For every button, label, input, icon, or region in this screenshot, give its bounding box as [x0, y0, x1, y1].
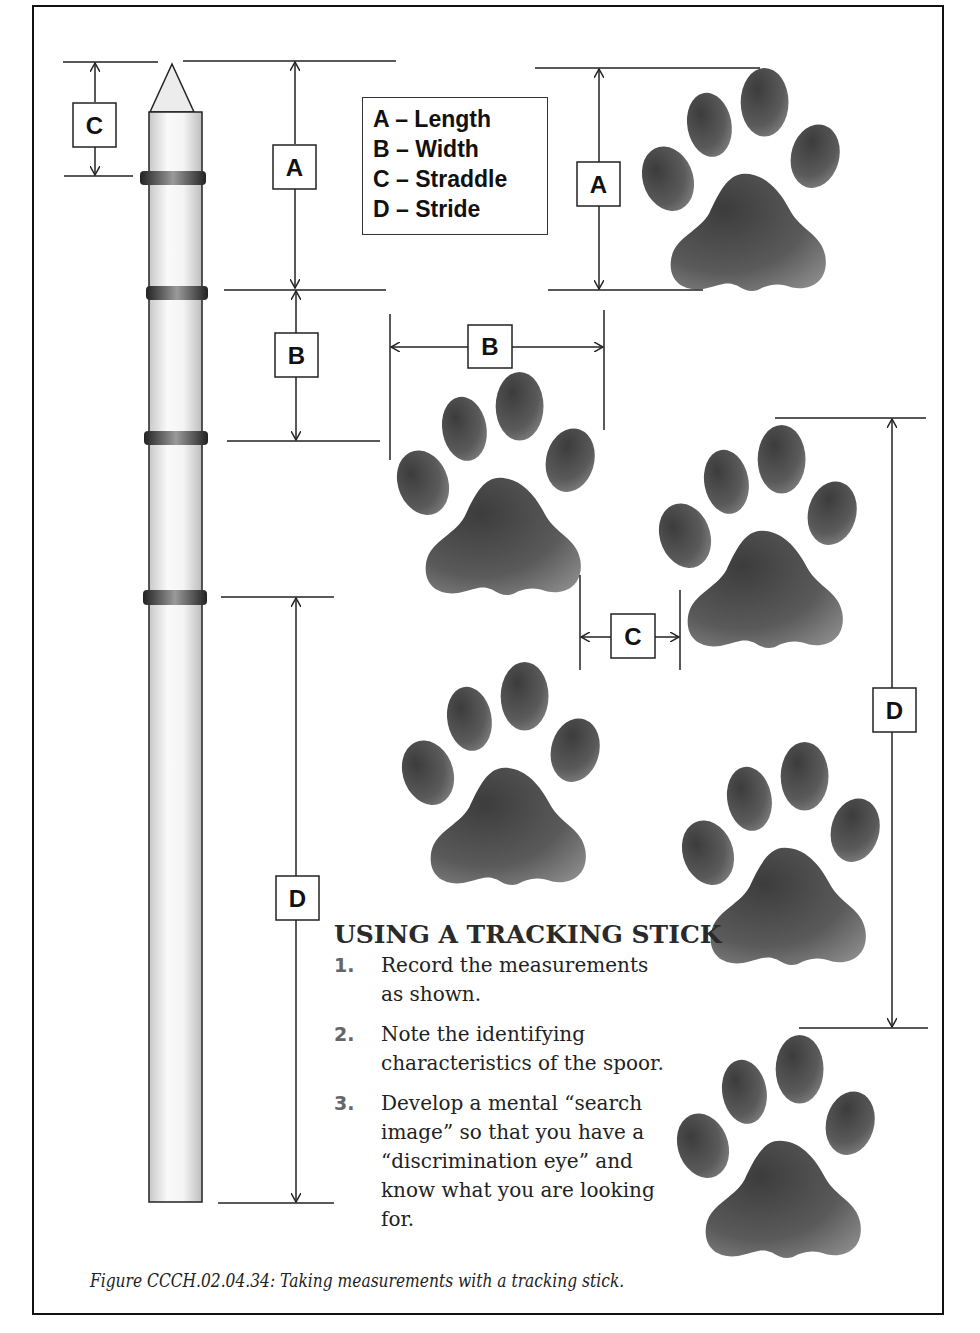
step-text: Note the identifying characteristics of …	[381, 1020, 691, 1078]
stick-label-b-text: B	[288, 342, 305, 369]
track-label-c: C	[611, 614, 655, 658]
stick-band-1	[140, 171, 206, 185]
figure-caption: Figure CCCH.02.04.34: Taking measurement…	[90, 1270, 624, 1291]
legend-item-width: B – Width	[373, 134, 537, 164]
legend-item-stride: D – Stride	[373, 194, 537, 224]
track-label-b-text: B	[481, 333, 498, 360]
stick-label-d: D	[276, 876, 319, 920]
stick-label-b: B	[275, 333, 318, 377]
stick-label-c-text: C	[86, 112, 103, 139]
instruction-step: 2. Note the identifying characteristics …	[334, 1020, 704, 1078]
instructions-list: 1. Record the measurements as shown. 2. …	[334, 951, 704, 1234]
instruction-step: 3. Develop a mental “search image” so th…	[334, 1089, 704, 1234]
stick-label-c: C	[73, 103, 116, 147]
instructions-title: USING A TRACKING STICK	[334, 920, 704, 949]
instruction-step: 1. Record the measurements as shown.	[334, 951, 704, 1009]
track-label-c-text: C	[624, 623, 641, 650]
step-number: 2.	[334, 1020, 381, 1078]
stick-label-d-text: D	[289, 885, 306, 912]
figure: C A B D	[0, 0, 980, 1333]
step-number: 1.	[334, 951, 381, 1009]
step-text: Record the measurements as shown.	[381, 951, 671, 1009]
stick-band-3	[144, 431, 208, 445]
paw-print-icon	[649, 425, 864, 648]
track-label-a: A	[577, 162, 620, 206]
legend: A – Length B – Width C – Straddle D – St…	[362, 97, 548, 235]
stick-tip	[150, 64, 194, 112]
track-label-d: D	[873, 688, 916, 732]
legend-item-straddle: C – Straddle	[373, 164, 537, 194]
track-label-b: B	[468, 325, 512, 368]
track-label-d-text: D	[886, 697, 903, 724]
paw-print-icon	[632, 68, 847, 291]
stick-band-4	[143, 590, 207, 605]
step-number: 3.	[334, 1089, 381, 1234]
stick-label-a: A	[273, 145, 316, 189]
step-text: Develop a mental “search image” so that …	[381, 1089, 666, 1234]
tracking-stick	[140, 64, 208, 1202]
paw-print-icon	[387, 372, 602, 595]
stick-label-a-text: A	[286, 154, 303, 181]
paw-print-icon	[392, 662, 607, 885]
track-label-a-text: A	[590, 171, 607, 198]
legend-item-length: A – Length	[373, 104, 537, 134]
instructions-panel: USING A TRACKING STICK 1. Record the mea…	[334, 920, 704, 1245]
stick-body	[149, 112, 202, 1202]
stick-band-2	[146, 286, 208, 300]
